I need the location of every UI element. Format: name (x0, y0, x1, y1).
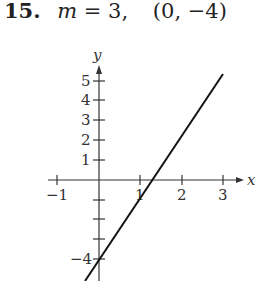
x-tick-label: 3 (218, 186, 228, 204)
y-tick-label: 4 (81, 91, 91, 109)
x-tick-label: 2 (177, 186, 187, 204)
x-axis-arrow-icon (236, 177, 244, 183)
y-tick-label: 3 (81, 111, 91, 129)
x-tick-label: −1 (46, 186, 68, 204)
y-tick-label: −4 (70, 250, 92, 268)
y-tick-label: 5 (81, 72, 91, 90)
plotted-line (85, 74, 223, 281)
x-axis-label: x (247, 171, 256, 189)
y-axis-label: y (92, 46, 102, 64)
graph: x y −1 1 2 3 1 2 3 4 5 −4 (0, 0, 258, 281)
y-axis-arrow-icon (96, 65, 102, 74)
y-tick-label: 2 (81, 131, 91, 149)
y-tick-label: 1 (81, 151, 91, 169)
